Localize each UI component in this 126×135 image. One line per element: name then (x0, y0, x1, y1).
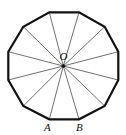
diagram-canvas: O A B (0, 0, 126, 135)
spoke-line (23, 27, 63, 66)
spoke-line (63, 27, 104, 66)
dodecagon-diagram: O A B (0, 0, 126, 135)
spoke-line (49, 66, 63, 119)
spoke-line (8, 52, 63, 66)
spoke-line (23, 66, 63, 106)
center-point (62, 64, 66, 68)
spoke-line (8, 66, 63, 80)
center-label-o: O (60, 50, 68, 62)
spoke-line (63, 66, 118, 80)
vertex-label-b: B (76, 121, 83, 133)
spoke-line (63, 52, 118, 66)
vertex-label-a: A (43, 121, 51, 133)
